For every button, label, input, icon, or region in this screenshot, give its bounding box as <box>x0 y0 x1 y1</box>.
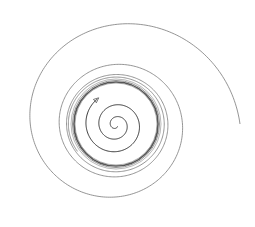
outer-spiral <box>30 24 240 197</box>
diagram-svg <box>0 0 255 227</box>
inner-spiral <box>86 99 140 152</box>
phase-portrait-diagram <box>0 0 255 227</box>
limit-cycle <box>71 79 161 169</box>
